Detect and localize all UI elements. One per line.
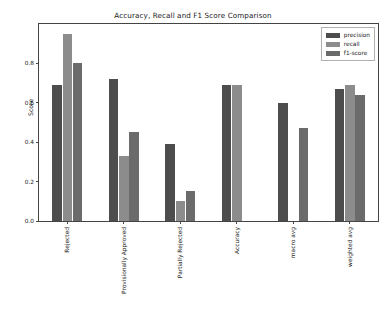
x-tick-label-text: Rejected (64, 227, 71, 253)
x-tick-mark (67, 221, 68, 224)
chart-legend: precision recall f1-score (321, 27, 375, 61)
bar (222, 85, 232, 221)
bar (73, 63, 83, 221)
y-tick-label: 0.6 (25, 99, 34, 107)
bar (63, 34, 73, 221)
bar (129, 132, 139, 221)
x-tick-mark (180, 221, 181, 224)
bar (232, 85, 242, 221)
bar (345, 85, 355, 221)
x-tick-label-text: Accuracy (233, 227, 240, 254)
y-tick-label: 0.0 (25, 217, 34, 225)
legend-swatch-recall (326, 42, 340, 47)
x-tick-mark (123, 221, 124, 224)
x-tick-label-text: Partially Rejected (177, 227, 184, 278)
bar (119, 156, 129, 221)
legend-label-precision: precision (344, 31, 370, 39)
x-tick-mark (293, 221, 294, 224)
y-tick-label: 0.8 (25, 59, 34, 67)
x-tick-mark (236, 221, 237, 224)
bar (186, 191, 196, 221)
legend-item-f1-score: f1-score (326, 49, 370, 57)
y-tick-label: 0.4 (25, 138, 34, 146)
bar (335, 89, 345, 221)
legend-label-f1-score: f1-score (344, 49, 367, 57)
legend-item-recall: recall (326, 40, 370, 48)
plot-axes: Score 0.00.20.40.60.8 RejectedProvisiona… (38, 23, 379, 222)
legend-swatch-f1-score (326, 51, 340, 56)
y-tick-label: 0.2 (25, 178, 34, 186)
bar (355, 95, 365, 221)
figure-canvas: Accuracy, Recall and F1 Score Comparison… (0, 0, 386, 314)
x-tick-label-text: Provisionally Approved (120, 227, 127, 294)
bar (52, 85, 62, 221)
bar (165, 144, 175, 221)
legend-label-recall: recall (344, 40, 360, 48)
x-tick-label-text: weighted avg (346, 227, 353, 267)
bar (278, 103, 288, 221)
bar (299, 128, 309, 221)
bar (109, 79, 119, 221)
x-tick-label-text: macro avg (290, 227, 297, 258)
legend-item-precision: precision (326, 31, 370, 39)
legend-swatch-precision (326, 33, 340, 38)
chart-title: Accuracy, Recall and F1 Score Comparison (0, 11, 386, 20)
x-tick-mark (349, 221, 350, 224)
bar (176, 201, 186, 221)
